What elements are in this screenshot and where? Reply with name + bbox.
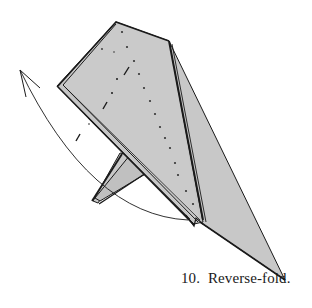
step-instruction: Reverse-fold. (208, 270, 291, 286)
origami-diagram (0, 0, 312, 308)
step-number: 10. (181, 270, 208, 287)
step-caption: 10.Reverse-fold. (181, 270, 291, 287)
main-body (57, 22, 206, 226)
